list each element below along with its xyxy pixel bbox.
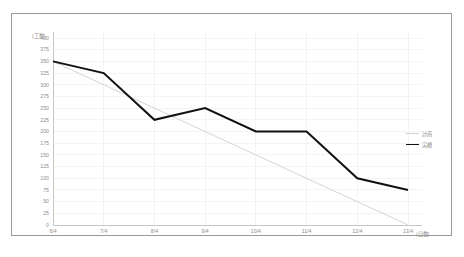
legend-swatch-icon bbox=[406, 133, 419, 134]
y-tick-label: 400 bbox=[23, 35, 49, 41]
x-tick-label: 7/4 bbox=[91, 228, 117, 234]
y-tick-label: 275 bbox=[23, 93, 49, 99]
chart-svg bbox=[12, 14, 453, 237]
y-tick-label: 225 bbox=[23, 117, 49, 123]
plot-area bbox=[12, 14, 451, 235]
y-tick-label: 325 bbox=[23, 70, 49, 76]
x-tick-label: 12/4 bbox=[344, 228, 370, 234]
chart-legend: 計画実績 bbox=[406, 128, 464, 150]
grid-lines bbox=[53, 32, 422, 225]
y-tick-label: 250 bbox=[23, 105, 49, 111]
y-tick-label: 150 bbox=[23, 152, 49, 158]
chart-screenshot: (工数) (日数) 400375350325300275250225200175… bbox=[0, 0, 464, 257]
y-tick-label: 375 bbox=[23, 46, 49, 52]
y-tick-label: 200 bbox=[23, 128, 49, 134]
y-tick-label: 50 bbox=[23, 198, 49, 204]
legend-label: 計画 bbox=[422, 130, 432, 137]
legend-item: 実績 bbox=[406, 139, 464, 150]
y-tick-label: 75 bbox=[23, 187, 49, 193]
y-tick-label: 350 bbox=[23, 58, 49, 64]
y-tick-label: 300 bbox=[23, 82, 49, 88]
x-tick-label: 10/4 bbox=[243, 228, 269, 234]
x-tick-label: 8/4 bbox=[141, 228, 167, 234]
y-tick-label: 175 bbox=[23, 140, 49, 146]
y-tick-label: 100 bbox=[23, 175, 49, 181]
legend-item: 計画 bbox=[406, 128, 464, 139]
y-tick-label: 0 bbox=[23, 222, 49, 228]
legend-label: 実績 bbox=[422, 141, 432, 148]
chart-frame: (工数) (日数) 400375350325300275250225200175… bbox=[11, 13, 452, 236]
axis-lines bbox=[53, 32, 422, 225]
y-tick-label: 25 bbox=[23, 210, 49, 216]
x-tick-label: 6/4 bbox=[40, 228, 66, 234]
x-tick-label: 13/4 bbox=[395, 228, 421, 234]
x-tick-label: 11/4 bbox=[294, 228, 320, 234]
x-tick-label: 9/4 bbox=[192, 228, 218, 234]
series-line-2 bbox=[53, 61, 408, 190]
y-tick-label: 125 bbox=[23, 163, 49, 169]
legend-swatch-icon bbox=[406, 144, 419, 145]
